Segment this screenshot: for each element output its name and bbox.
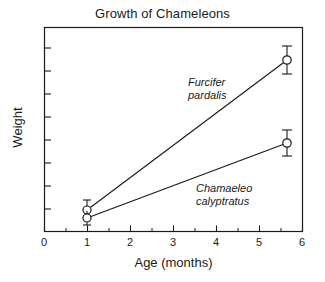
data-point-chamaeleo-p1 (83, 214, 91, 222)
series-annotation-furcifer-pardalis: Furcifer pardalis (188, 76, 227, 102)
data-point-furcifer-p2 (283, 56, 291, 64)
x-tick-label-5: 5 (249, 236, 269, 248)
x-tick-label-3: 3 (163, 236, 183, 248)
x-tick-label-0: 0 (34, 236, 54, 248)
y-axis-ticks (45, 48, 52, 209)
plot-frame (45, 28, 303, 232)
x-axis-major-ticks (45, 226, 303, 232)
x-tick-label-4: 4 (206, 236, 226, 248)
x-tick-label-2: 2 (120, 236, 140, 248)
series-line-furcifer-pardalis (87, 60, 287, 210)
y-axis-label: Weight (10, 88, 25, 168)
x-tick-label-6: 6 (292, 236, 312, 248)
x-tick-label-1: 1 (77, 236, 97, 248)
series-line-chamaeleo-calyptratus (87, 143, 287, 218)
data-point-chamaeleo-p2 (283, 139, 291, 147)
series-annotation-chamaeleo-calyptratus: Chamaeleo calyptratus (196, 182, 252, 208)
x-axis-label: Age (months) (44, 255, 303, 270)
chart-figure: Growth of Chameleons (0, 0, 325, 282)
